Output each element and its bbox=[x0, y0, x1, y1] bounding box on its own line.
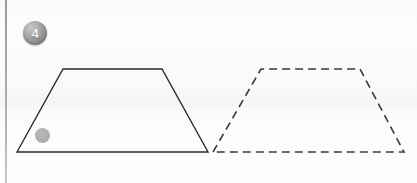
dashed-trapezoid-shape bbox=[213, 69, 404, 152]
shaded-dot-marker bbox=[35, 128, 50, 143]
worksheet-page: 4 bbox=[0, 0, 417, 183]
figure-canvas bbox=[0, 0, 417, 183]
